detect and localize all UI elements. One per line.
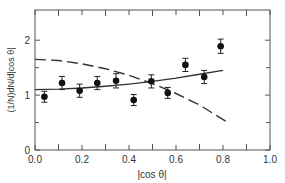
plot-points bbox=[41, 39, 224, 105]
data-point bbox=[94, 80, 101, 87]
data-point bbox=[59, 80, 66, 87]
data-point bbox=[148, 78, 155, 85]
x-tick-label: 0.8 bbox=[216, 154, 230, 165]
y-axis-label: (1/N)dN/d|cos θ| bbox=[6, 47, 16, 112]
y-tick-label: 0 bbox=[24, 145, 30, 156]
data-point bbox=[217, 43, 224, 50]
data-point bbox=[113, 78, 120, 85]
x-tick-label: 0.6 bbox=[169, 154, 183, 165]
dashed-prediction-curve bbox=[35, 59, 228, 122]
x-tick-label: 1.0 bbox=[263, 154, 277, 165]
y-tick-label: 1 bbox=[24, 90, 30, 101]
chart: 0.00.20.40.60.81.0012 |cos θ| (1/N)dN/d|… bbox=[0, 0, 285, 183]
plot-curves bbox=[35, 59, 228, 122]
data-point bbox=[182, 62, 189, 69]
y-tick-label: 2 bbox=[24, 35, 30, 46]
data-point bbox=[76, 87, 83, 94]
data-point bbox=[201, 74, 208, 81]
x-tick-label: 0.0 bbox=[28, 154, 42, 165]
data-point bbox=[164, 90, 171, 97]
x-tick-label: 0.4 bbox=[122, 154, 136, 165]
x-tick-label: 0.2 bbox=[75, 154, 89, 165]
data-point bbox=[41, 93, 48, 100]
x-axis-label: |cos θ| bbox=[137, 169, 166, 180]
data-point bbox=[130, 97, 137, 104]
